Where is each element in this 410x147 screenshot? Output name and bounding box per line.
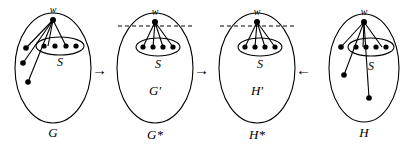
set-vertex <box>41 43 46 48</box>
panel-outer-label: G* <box>147 127 163 142</box>
panel-g-star: w S G' G* <box>105 0 205 147</box>
set-vertex <box>252 44 257 49</box>
set-vertex <box>63 43 68 48</box>
panel-inner-label: G' <box>149 83 161 98</box>
outside-vertex <box>366 95 372 101</box>
set-vertex <box>262 44 267 49</box>
vertex-w <box>152 19 158 25</box>
set-vertex <box>150 44 155 49</box>
set-s-label: S <box>155 57 161 71</box>
edge-w-to-set-2 <box>53 20 66 46</box>
panel-inner-label: H' <box>250 83 263 98</box>
set-s-label: S <box>257 57 263 71</box>
set-vertex <box>383 44 388 49</box>
outside-vertex <box>25 79 31 85</box>
vertex-w <box>254 19 260 25</box>
set-vertex <box>363 44 368 49</box>
graph-outline-ellipse <box>15 13 91 123</box>
outside-vertex <box>23 45 29 51</box>
panel-h: w S H <box>309 0 409 147</box>
set-s-label: S <box>57 55 63 69</box>
vertex-w-label: w <box>254 6 261 17</box>
vertex-w <box>361 19 367 25</box>
set-vertex <box>353 44 358 49</box>
set-vertex <box>73 43 78 48</box>
outside-vertex <box>341 72 347 78</box>
vertex-w-label: w <box>361 6 368 17</box>
set-vertex <box>160 44 165 49</box>
vertex-w-label: w <box>152 6 159 17</box>
outside-vertex <box>338 44 344 50</box>
set-vertex <box>272 44 277 49</box>
edge-w-to-outside-1 <box>341 22 364 47</box>
set-vertex <box>242 44 247 49</box>
set-vertex <box>170 44 175 49</box>
panel-outer-label: H <box>358 125 369 140</box>
set-vertex <box>373 44 378 49</box>
vertex-w <box>50 17 56 23</box>
edge-w-to-set-2 <box>364 22 382 47</box>
panel-g: w S G <box>3 0 103 147</box>
set-s-label: S <box>368 59 374 73</box>
outside-vertex <box>20 60 26 66</box>
panel-outer-label: G <box>48 125 58 140</box>
set-vertex <box>140 44 145 49</box>
graph-transformation-figure: w S G → w S G' G* → <box>0 0 410 147</box>
set-vertex <box>52 43 57 48</box>
panel-h-star: w S H' H* <box>207 0 307 147</box>
vertex-w-label: w <box>50 4 57 15</box>
panel-outer-label: H* <box>248 127 265 142</box>
